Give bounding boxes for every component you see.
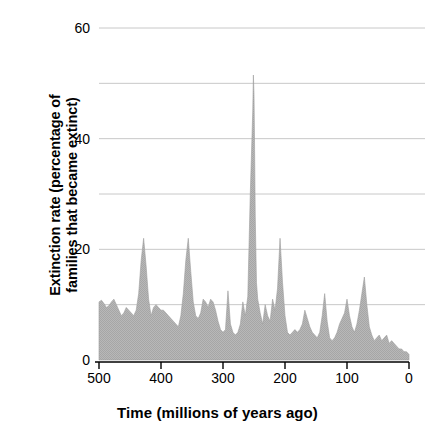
x-tick-label-300: 300	[193, 371, 253, 385]
x-axis-title: Time (millions of years ago)	[0, 404, 435, 421]
x-tick-label-400: 400	[131, 371, 191, 385]
x-tick-label-0: 0	[379, 371, 435, 385]
y-tick-label-60: 60	[50, 21, 90, 35]
x-tick-label-200: 200	[255, 371, 315, 385]
x-tick-label-500: 500	[69, 371, 129, 385]
area-series	[99, 75, 409, 360]
y-tick-label-0: 0	[50, 353, 90, 367]
chart-figure: Extinction rate (percentage of families …	[0, 0, 435, 444]
x-tick-marks	[99, 362, 409, 369]
x-tick-label-100: 100	[317, 371, 377, 385]
y-tick-label-20: 20	[50, 242, 90, 256]
y-axis-title: Extinction rate (percentage of families …	[47, 45, 81, 345]
y-tick-label-40: 40	[50, 132, 90, 146]
x-axis-title-text: Time (millions of years ago)	[117, 404, 318, 421]
grid-lines	[99, 28, 425, 305]
extinction-rate-area	[99, 75, 409, 360]
y-axis-title-text: Extinction rate (percentage of families …	[47, 94, 80, 296]
